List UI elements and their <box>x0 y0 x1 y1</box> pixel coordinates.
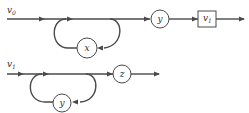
arrow-icon <box>67 17 73 22</box>
bottom-loop-left <box>30 74 53 102</box>
bottom-diagram: v1 y z <box>7 59 160 112</box>
top-input-label: v0 <box>7 5 16 16</box>
bottom-loop-right <box>80 74 96 102</box>
arrow-icon <box>18 72 24 77</box>
top-loop-left <box>54 19 77 48</box>
arrow-icon <box>97 46 103 51</box>
arrow-icon <box>192 17 198 22</box>
arrow-icon <box>72 100 78 105</box>
arrow-icon <box>154 72 160 77</box>
diagram-canvas: v0 x y v1 v1 y z <box>0 0 249 113</box>
node-z-label: z <box>119 69 125 79</box>
node-y-bottom-label: y <box>58 98 65 108</box>
bottom-input-label: v1 <box>7 59 16 70</box>
top-diagram: v0 x y v1 <box>7 5 245 58</box>
arrow-icon <box>39 17 45 22</box>
top-loop-right <box>104 19 120 48</box>
node-y-label: y <box>156 14 163 24</box>
arrow-icon <box>239 17 245 22</box>
arrow-icon <box>144 17 150 22</box>
arrow-icon <box>43 72 49 77</box>
arrow-icon <box>107 72 113 77</box>
node-x-label: x <box>84 43 89 53</box>
